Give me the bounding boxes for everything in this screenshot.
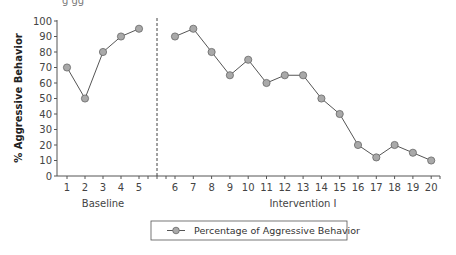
x-tick-label: 9 [227,182,233,193]
x-tick-label: 5 [136,182,142,193]
x-tick-label: 6 [172,182,178,193]
data-point [63,64,70,71]
y-tick-label: 20 [39,140,52,151]
intervention-label: Intervention I [269,198,336,209]
y-tick-label: 10 [39,155,52,166]
data-point [354,141,361,148]
legend-marker-icon [173,227,180,234]
data-point [117,33,124,40]
x-tick-label: 11 [260,182,273,193]
data-point [208,48,215,55]
y-axis-title: % Aggressive Behavior [13,33,24,162]
data-point [135,25,142,32]
x-tick-label: 16 [352,182,365,193]
x-tick-label: 8 [208,182,214,193]
x-tick-label: 19 [407,182,420,193]
data-point [300,72,307,79]
cropped-text-fragment: g gg [62,0,84,6]
y-tick-label: 60 [39,78,52,89]
data-point [318,95,325,102]
y-tick-label: 100 [33,16,52,27]
data-point [81,95,88,102]
y-tick-label: 30 [39,124,52,135]
data-point [409,149,416,156]
x-tick-label: 1 [64,182,70,193]
y-tick-label: 40 [39,109,52,120]
data-point [245,56,252,63]
data-point [373,154,380,161]
y-tick-label: 80 [39,47,52,58]
data-point [190,25,197,32]
data-point [281,72,288,79]
data-point [391,141,398,148]
data-point [99,48,106,55]
legend-label: Percentage of Aggressive Behavior [194,225,360,236]
x-tick-label: 10 [242,182,255,193]
x-tick-label: 2 [82,182,88,193]
data-point [336,110,343,117]
x-tick-label: 4 [118,182,124,193]
y-tick-label: 70 [39,62,52,73]
y-tick-label: 0 [46,171,52,182]
data-line [67,29,139,99]
x-tick-label: 18 [388,182,401,193]
y-tick-label: 50 [39,93,52,104]
x-tick-label: 17 [370,182,383,193]
x-tick-label: 12 [278,182,291,193]
x-tick-label: 7 [190,182,196,193]
data-point [428,157,435,164]
x-tick-label: 14 [315,182,328,193]
x-tick-label: 15 [333,182,346,193]
baseline-label: Baseline [82,198,124,209]
data-point [263,79,270,86]
x-tick-label: 13 [297,182,310,193]
x-tick-label: 3 [100,182,106,193]
y-tick-label: 90 [39,31,52,42]
data-point [226,72,233,79]
line-chart: g gg010203040506070809010012345678910111… [0,0,456,255]
x-tick-label: 20 [425,182,438,193]
data-point [171,33,178,40]
